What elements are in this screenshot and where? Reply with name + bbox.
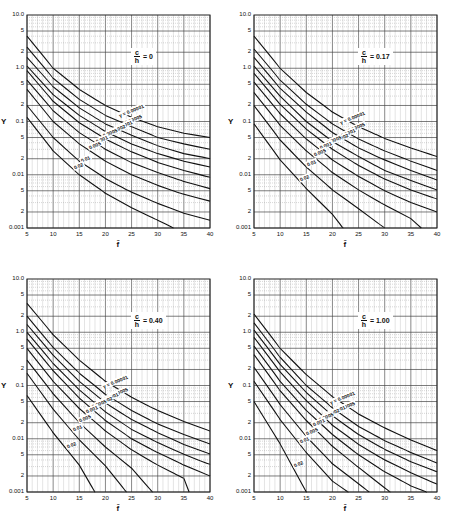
x-tick-label: 5 [20,495,34,501]
y-tick-label: 10.0 [8,11,24,17]
ratio-fraction: ch [134,49,140,64]
x-tick-label: 5 [247,495,261,501]
ratio-legend: ch= 0 [131,48,156,65]
ratio-denominator: h [135,321,139,328]
ratio-value: = 0.17 [370,53,390,60]
chart-panel: γ = 0.000010.000050.00010.00020.00050.00… [0,0,227,264]
x-tick-label: 15 [72,495,86,501]
y-tick-label: 5 [235,187,251,193]
y-tick-label: 2 [8,365,24,371]
x-tick-label: 40 [203,231,217,237]
y-axis-title: Y [228,381,233,390]
x-tick-label: 25 [352,231,366,237]
y-tick-label: 0.001 [235,488,251,494]
x-tick-label: 30 [151,495,165,501]
x-tick-label: 25 [125,495,139,501]
y-tick-label: 10.0 [235,11,251,17]
y-tick-label: 5 [8,80,24,86]
y-tick-label: 0.1 [8,118,24,124]
ratio-legend: ch= 1.00 [358,312,393,329]
x-tick-label: 30 [151,231,165,237]
chart-panel: γ = 0.000010.000050.00010.00020.00050.00… [0,264,227,528]
ratio-legend: ch= 0.17 [358,48,393,65]
y-tick-label: 2 [8,208,24,214]
ratio-value: = 1.00 [370,317,390,324]
y-tick-label: 10.0 [235,275,251,281]
y-axis-title: Y [1,381,6,390]
ratio-value: = 0 [143,53,153,60]
ratio-fraction: ch [361,313,367,328]
x-axis-title: f̄ [344,504,347,513]
y-tick-label: 2 [235,48,251,54]
x-tick-label: 20 [325,231,339,237]
y-tick-label: 2 [8,155,24,161]
y-tick-label: 5 [8,134,24,140]
y-tick-label: 2 [8,101,24,107]
ratio-fraction: ch [361,49,367,64]
ratio-legend: ch= 0.40 [131,312,166,329]
y-tick-label: 2 [8,419,24,425]
y-tick-label: 2 [235,208,251,214]
x-tick-label: 10 [273,495,287,501]
y-tick-label: 5 [8,187,24,193]
y-tick-label: 1.0 [235,64,251,70]
y-tick-label: 2 [8,48,24,54]
y-tick-label: 0.1 [8,382,24,388]
y-tick-label: 2 [235,101,251,107]
x-tick-label: 35 [404,231,418,237]
y-tick-label: 2 [235,312,251,318]
ratio-numerator: c [361,313,367,321]
y-tick-label: 5 [8,451,24,457]
x-tick-label: 10 [273,231,287,237]
y-tick-label: 2 [235,155,251,161]
y-tick-label: 5 [235,451,251,457]
x-tick-label: 35 [404,495,418,501]
x-tick-label: 20 [325,495,339,501]
y-tick-label: 5 [235,291,251,297]
x-tick-label: 10 [46,495,60,501]
y-axis-title: Y [228,117,233,126]
y-tick-label: 5 [8,291,24,297]
y-tick-label: 0.01 [8,435,24,441]
x-tick-label: 20 [98,231,112,237]
y-tick-label: 0.001 [235,224,251,230]
x-axis-title: f̄ [344,240,347,249]
ratio-fraction: ch [134,313,140,328]
y-tick-label: 2 [235,365,251,371]
y-tick-label: 5 [8,344,24,350]
y-tick-label: 2 [8,312,24,318]
x-tick-label: 40 [430,495,444,501]
x-tick-label: 10 [46,231,60,237]
ratio-value: = 0.40 [143,317,163,324]
y-tick-label: 0.01 [8,171,24,177]
x-tick-label: 15 [72,231,86,237]
curve-gamma-0_00005 [27,47,210,149]
y-tick-label: 1.0 [235,328,251,334]
y-tick-label: 5 [235,27,251,33]
x-tick-label: 15 [299,231,313,237]
x-tick-label: 35 [177,495,191,501]
y-tick-label: 10.0 [8,275,24,281]
y-tick-label: 2 [235,419,251,425]
x-tick-label: 5 [247,231,261,237]
ratio-denominator: h [135,57,139,64]
curve-gamma-0_001 [27,80,210,189]
curve-gamma-0_0001 [254,330,437,472]
y-tick-label: 2 [8,472,24,478]
y-tick-label: 5 [235,80,251,86]
curve-gamma-0_0005 [27,339,210,476]
y-axis-title: Y [1,117,6,126]
y-tick-label: 0.001 [8,224,24,230]
x-axis-title: f̄ [117,504,120,513]
ratio-numerator: c [361,49,367,57]
y-tick-label: 5 [235,134,251,140]
y-tick-label: 0.01 [235,435,251,441]
x-tick-label: 40 [203,495,217,501]
y-tick-label: 1.0 [8,328,24,334]
y-tick-label: 0.001 [8,488,24,494]
y-tick-label: 5 [8,398,24,404]
chart-panel: γ = 0.000010.000050.00010.00020.00050.00… [227,0,454,264]
x-axis-title: f̄ [117,240,120,249]
x-tick-label: 25 [125,231,139,237]
x-tick-label: 35 [177,231,191,237]
